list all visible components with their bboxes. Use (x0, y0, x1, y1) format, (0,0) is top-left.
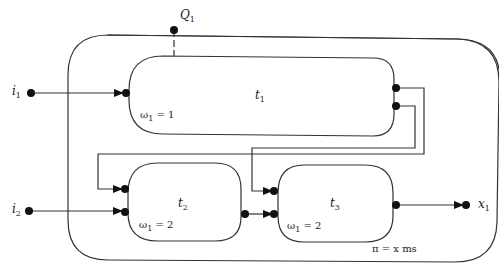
t1-input-port (122, 89, 130, 97)
input-label-i1: i1 (12, 84, 21, 100)
task-t1-omega: ω1 = 1 (140, 109, 174, 123)
input-port-i2 (25, 207, 33, 215)
task-t2-omega: ω1 = 2 (139, 219, 173, 233)
input-port-i1 (27, 89, 35, 97)
t1-output-port-2 (392, 102, 400, 110)
task-t1-label: t1 (255, 88, 265, 104)
t2-output-port (241, 210, 249, 218)
output-label-x1: x1 (478, 197, 490, 213)
query-label: Q1 (180, 8, 195, 24)
t3-input-port-1 (270, 187, 278, 195)
output-port-x1 (462, 201, 470, 209)
input-label-i2: i2 (12, 202, 21, 218)
t3-input-port-2 (270, 210, 278, 218)
period-label: π = x ms (372, 243, 417, 254)
task-t3-label: t3 (330, 196, 340, 212)
t3-output-port (392, 201, 400, 209)
t2-input-port-1 (121, 185, 129, 193)
diagram-canvas (0, 0, 499, 274)
task-t2-label: t2 (178, 196, 188, 212)
query-port (170, 26, 178, 34)
t2-input-port-2 (121, 208, 129, 216)
t1-output-port-1 (392, 84, 400, 92)
task-t3-omega: ω1 = 2 (287, 220, 321, 234)
